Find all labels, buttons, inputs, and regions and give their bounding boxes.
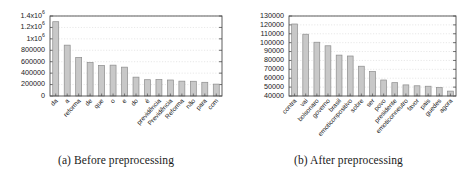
x-axis-category-label: a xyxy=(63,97,71,105)
y-axis-tick-label: 100000 xyxy=(260,38,284,47)
y-axis-tick-label: 90000 xyxy=(264,46,284,55)
x-axis-category-label: é xyxy=(143,97,151,105)
y-axis-tick-label: 1.4x106 xyxy=(21,9,46,20)
bar xyxy=(87,63,93,96)
x-axis-category-label: do xyxy=(129,97,139,107)
bar xyxy=(347,56,353,96)
bar-chart-svg-a: 02000004000006000008000001x1061.2x1061.4… xyxy=(0,0,232,140)
y-axis-tick-label: 1x106 xyxy=(27,32,46,43)
bar xyxy=(64,45,70,96)
bar xyxy=(325,46,331,96)
x-axis-category-label: e xyxy=(120,97,128,105)
x-axis-category-label: que xyxy=(92,97,105,111)
subfigure-b-caption: (b) After preprocessing xyxy=(232,154,465,166)
subfigure-b: 4000050000600007000080000900001000001100… xyxy=(232,0,465,184)
y-axis-tick-label: 1.2x106 xyxy=(21,21,46,32)
x-axis-category-label: com xyxy=(206,97,219,111)
bar xyxy=(53,22,59,96)
chart-after-preprocessing: 4000050000600007000080000900001000001100… xyxy=(232,0,465,140)
x-axis-category-label: sobre xyxy=(349,97,365,114)
bar xyxy=(370,72,376,96)
bar xyxy=(110,65,116,96)
x-axis-category-label: da xyxy=(49,97,59,107)
x-axis-category-label: agora xyxy=(437,97,454,115)
figure-before-after-preprocessing: 02000004000006000008000001x1061.2x1061.4… xyxy=(0,0,465,184)
y-axis-tick-label: 130000 xyxy=(260,11,284,20)
y-axis-tick-label: 70000 xyxy=(264,64,284,73)
bar xyxy=(303,34,309,96)
subfigure-a-caption: (a) Before preprocessing xyxy=(0,154,232,166)
bar xyxy=(76,57,82,96)
bar xyxy=(336,55,342,96)
y-axis-tick-label: 80000 xyxy=(264,55,284,64)
subfigure-a: 02000004000006000008000001x1061.2x1061.4… xyxy=(0,0,232,184)
y-axis-tick-label: 110000 xyxy=(261,29,284,38)
y-axis-tick-label: 60000 xyxy=(264,73,284,82)
y-axis-tick-label: 800000 xyxy=(21,45,45,54)
chart-before-preprocessing: 02000004000006000008000001x1061.2x1061.4… xyxy=(0,0,232,140)
y-axis-tick-label: 600000 xyxy=(21,57,45,66)
y-axis-tick-label: 0 xyxy=(41,91,45,100)
y-axis-tick-label: 200000 xyxy=(21,79,45,88)
bar xyxy=(292,24,298,96)
bar xyxy=(358,66,364,96)
y-axis-tick-label: 120000 xyxy=(260,20,284,29)
y-axis-tick-label: 400000 xyxy=(21,68,45,77)
y-axis-tick-label: 50000 xyxy=(264,82,284,91)
x-axis-category-label: o xyxy=(109,97,117,105)
bar xyxy=(133,77,139,96)
bar xyxy=(314,42,320,96)
bar xyxy=(99,65,105,96)
bar-chart-svg-b: 4000050000600007000080000900001000001100… xyxy=(232,0,465,140)
y-axis-tick-label: 40000 xyxy=(264,91,284,100)
bar xyxy=(122,67,128,96)
